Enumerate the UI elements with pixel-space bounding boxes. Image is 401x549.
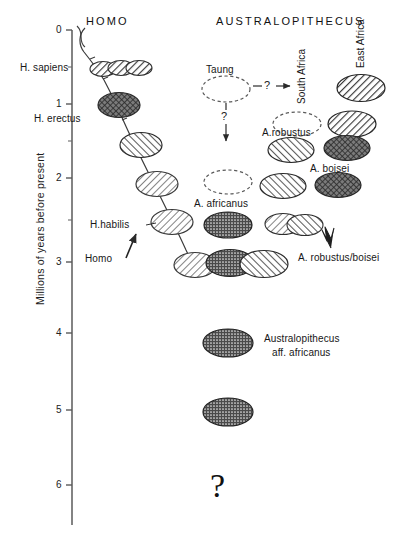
fossil-east-africa-1[interactable] <box>337 75 385 102</box>
y-tick-3: 3 <box>56 256 62 267</box>
label-aff-africanus-line2: aff. africanus <box>272 347 330 358</box>
y-axis <box>66 30 72 525</box>
column-header-homo: HOMO <box>86 15 129 27</box>
fossil-h-habilis[interactable] <box>151 210 193 235</box>
y-tick-4: 4 <box>56 327 62 338</box>
label-h-erectus: H. erectus <box>34 113 81 124</box>
question-mark-taung-down: ? <box>221 110 227 122</box>
column-header-australopithecus: AUSTRALOPITHECUS <box>216 15 365 27</box>
y-tick-2: 2 <box>56 172 62 183</box>
fossil-robustus-boisei-pair-1[interactable] <box>265 214 323 236</box>
y-tick-0: 0 <box>56 24 62 35</box>
fossil-east-africa-2[interactable] <box>328 111 376 137</box>
label-a-robustus: A.robustus <box>262 127 311 138</box>
fossil-homo-mid[interactable] <box>120 133 162 158</box>
fossil-a-boisei-1[interactable] <box>324 136 370 161</box>
fossil-aff-africanus-5ma[interactable] <box>203 398 253 426</box>
figure-canvas: HOMO AUSTRALOPITHECUS 0 1 2 3 4 5 6 Mill… <box>0 0 401 549</box>
fossil-a-boisei-2[interactable] <box>315 173 361 198</box>
fossil-a-africanus-dashed[interactable] <box>204 170 252 194</box>
label-aff-africanus-line1: Australopithecus <box>264 333 340 344</box>
label-taung: Taung <box>206 64 234 75</box>
label-a-boisei: A. boisei <box>310 163 349 174</box>
fossil-taung-dashed[interactable] <box>202 76 250 102</box>
fossil-group-h-sapiens[interactable] <box>90 61 152 77</box>
robustus-boisei-forked-arrow <box>322 227 334 248</box>
label-a-africanus: A. africanus <box>194 198 248 209</box>
y-tick-5: 5 <box>56 404 62 415</box>
homo-direction-arrow <box>126 234 136 258</box>
question-mark-taung-right: ? <box>264 79 270 91</box>
fossil-a-robustus-1[interactable] <box>268 138 314 163</box>
label-h-sapiens: H. sapiens <box>20 62 68 73</box>
y-axis-title: Millions of years before present <box>34 153 46 305</box>
label-homo-arrow: Homo <box>85 253 112 264</box>
y-tick-6: 6 <box>56 479 62 490</box>
question-mark-origin: ? <box>210 467 225 505</box>
y-tick-1: 1 <box>56 98 62 109</box>
fossil-aff-africanus-4ma[interactable] <box>203 329 253 357</box>
label-h-habilis: H.habilis <box>90 219 129 230</box>
label-east-africa: East Africa <box>355 19 366 68</box>
fossil-homo-2ma[interactable] <box>136 172 178 197</box>
label-a-robustus-boisei: A. robustus/boisei <box>298 252 379 263</box>
diagram-svg <box>0 0 401 549</box>
fossil-a-robustus-2[interactable] <box>260 174 306 199</box>
fossil-a-africanus-1[interactable] <box>204 212 252 238</box>
fossil-h-erectus[interactable] <box>98 93 140 118</box>
label-south-africa: South Africa <box>296 49 307 104</box>
fossil-africanus-robustus-pair[interactable] <box>206 250 288 278</box>
